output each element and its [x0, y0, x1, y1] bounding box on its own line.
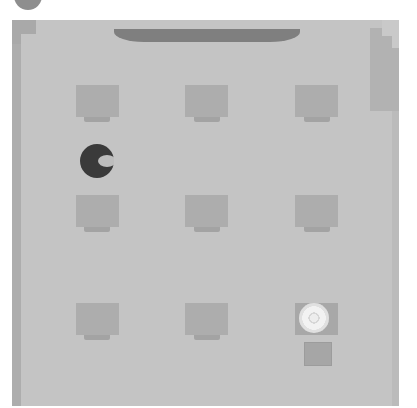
cell-base	[84, 227, 110, 232]
right-wall-edge	[392, 111, 399, 406]
grid-cell[interactable]	[76, 85, 119, 117]
grid-cell[interactable]	[185, 303, 228, 335]
game-board[interactable]	[12, 20, 399, 406]
small-block[interactable]	[304, 342, 332, 366]
grid-cell[interactable]	[185, 195, 228, 227]
right-wall-corner	[382, 20, 399, 36]
top-left-wall	[12, 20, 36, 34]
grid-cell[interactable]	[185, 85, 228, 117]
grid-cell[interactable]	[76, 195, 119, 227]
corner-badge	[14, 0, 42, 10]
right-wall-corner-step	[392, 36, 399, 48]
grid-cell[interactable]	[295, 85, 338, 117]
player-pacman-icon	[80, 144, 114, 178]
grid-cell[interactable]	[295, 195, 338, 227]
top-bar-slot	[114, 29, 300, 42]
glowing-target-icon	[299, 303, 329, 333]
cell-base	[194, 335, 220, 340]
cell-base	[84, 335, 110, 340]
cell-base	[194, 227, 220, 232]
cell-base	[304, 117, 330, 122]
cell-base	[304, 227, 330, 232]
left-wall	[12, 20, 21, 406]
grid-cell[interactable]	[76, 303, 119, 335]
top-left-wall-step	[12, 34, 21, 44]
cell-base	[84, 117, 110, 122]
cell-base	[194, 117, 220, 122]
